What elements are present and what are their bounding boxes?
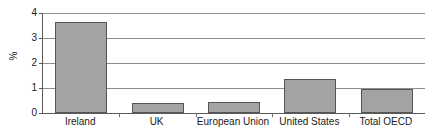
y-axis-tick-label: 4 [20, 8, 37, 18]
bar-chart: % 01234 IrelandUKEuropean UnionUnited St… [0, 0, 446, 138]
bar [132, 103, 184, 113]
bar [208, 102, 260, 113]
x-axis-category-labels: IrelandUKEuropean UnionUnited StatesTota… [42, 116, 424, 132]
x-axis-category-label: UK [118, 116, 194, 128]
bar [361, 89, 413, 113]
x-axis-category-label: United States [271, 116, 347, 128]
y-axis-tick-label: 2 [20, 58, 37, 68]
y-axis-tick-mark [39, 113, 43, 114]
bar [284, 79, 336, 113]
y-axis-tick-labels: 01234 [20, 13, 37, 113]
plot-area [42, 13, 425, 114]
y-axis-tick-label: 3 [20, 33, 37, 43]
x-axis-category-label: Total OECD [348, 116, 424, 128]
y-axis-tick-label: 1 [20, 83, 37, 93]
bars-group [43, 13, 425, 113]
bar [55, 22, 107, 113]
y-axis-tick-label: 0 [20, 108, 37, 118]
x-axis-category-label: Ireland [42, 116, 118, 128]
x-axis-category-label: European Union [195, 116, 271, 128]
